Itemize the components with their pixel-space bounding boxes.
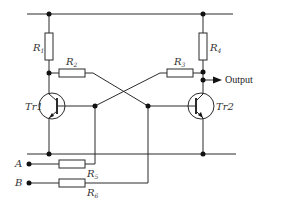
label-tr1: Tr1 <box>25 101 43 112</box>
node-tr1-collector <box>47 71 52 76</box>
resistor-r5 <box>59 160 85 168</box>
label-input-a: A <box>14 158 22 169</box>
resistor-r2 <box>59 69 85 77</box>
wire-r5-to-tr1-base <box>85 106 95 164</box>
transistor-tr2 <box>148 93 214 154</box>
label-r4: R4 <box>209 42 222 54</box>
label-tr2: Tr2 <box>216 101 234 112</box>
label-r3: R3 <box>173 56 186 68</box>
output-arrow-icon <box>213 77 222 84</box>
resistor-r4 <box>199 33 207 60</box>
resistor-r6 <box>59 179 85 187</box>
cross-wire-r3-to-tr1-base <box>95 73 160 106</box>
transistor-tr1 <box>39 93 95 154</box>
node-tr1-base <box>93 104 98 109</box>
resistor-r1 <box>45 33 53 60</box>
label-input-b: B <box>14 177 22 188</box>
node-top-left <box>47 12 52 17</box>
cross-wire-r2-to-tr2-base <box>93 73 148 106</box>
output-label: Output <box>225 74 253 85</box>
label-r2: R2 <box>65 56 78 68</box>
label-r1: R1 <box>32 42 44 54</box>
node-bottom-left <box>47 152 52 157</box>
node-bottom-right <box>201 152 206 157</box>
input-terminal-b[interactable] <box>27 181 32 186</box>
resistor-r3 <box>167 69 193 77</box>
node-tr2-base <box>146 104 151 109</box>
label-r5: R5 <box>86 168 99 180</box>
label-r6: R6 <box>86 187 99 199</box>
node-output <box>201 78 206 83</box>
node-top-right <box>201 12 206 17</box>
node-tr2-collector <box>201 70 206 75</box>
input-terminal-a[interactable] <box>27 162 32 167</box>
circuit-diagram: R1 R4 R2 R3 Output Tr1 Tr2 <box>0 0 291 206</box>
